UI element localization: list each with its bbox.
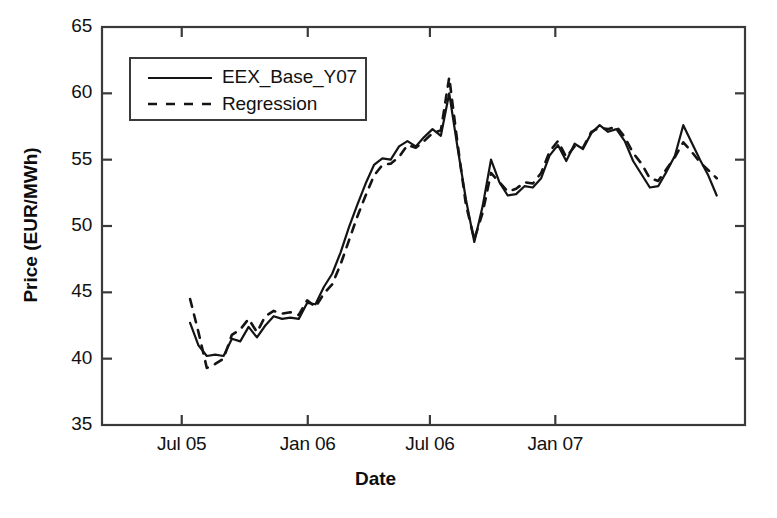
y-axis-tick-label: 65 <box>46 15 92 37</box>
chart-container: 35404550556065 Jul 05Jan 06Jul 06Jan 07 … <box>0 0 777 518</box>
y-axis-tick-label: 35 <box>46 413 92 435</box>
x-axis-tick-label: Jul 05 <box>136 433 228 455</box>
x-axis-title: Date <box>355 468 396 490</box>
x-axis-tick-label: Jan 07 <box>509 433 601 455</box>
series-line-eex-base-y07 <box>190 93 717 356</box>
y-axis-tick-marks <box>102 93 745 358</box>
y-axis-title: Price (EUR/MWh) <box>19 147 41 302</box>
legend-item-eex-base-y07: EEX_Base_Y07 <box>222 66 357 88</box>
y-axis-tick-label: 45 <box>46 280 92 302</box>
y-axis-tick-label: 40 <box>46 347 92 369</box>
legend-item-regression: Regression <box>222 93 317 115</box>
y-axis-tick-label: 55 <box>46 148 92 170</box>
x-axis-tick-label: Jul 06 <box>384 433 476 455</box>
y-axis-tick-label: 50 <box>46 214 92 236</box>
y-axis-tick-label: 60 <box>46 81 92 103</box>
x-axis-tick-label: Jan 06 <box>262 433 354 455</box>
